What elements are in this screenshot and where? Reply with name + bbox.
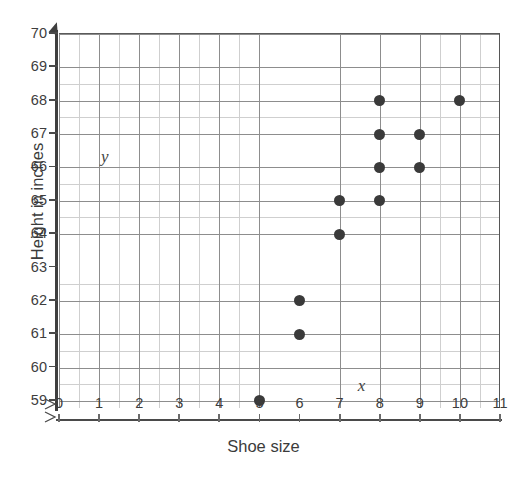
x-tick-mark <box>339 414 341 422</box>
x-tick-label: 1 <box>86 396 112 411</box>
y-tick-mark <box>49 366 58 368</box>
x-tick-mark <box>379 414 381 422</box>
x-tick-label: 10 <box>447 396 473 411</box>
data-point <box>374 195 385 206</box>
y-tick-label: 61 <box>25 326 47 341</box>
y-tick-mark <box>49 266 58 268</box>
x-variable-label: x <box>358 376 366 396</box>
y-tick-mark <box>49 99 58 101</box>
data-point <box>414 129 425 140</box>
y-tick-label: 69 <box>25 59 47 74</box>
x-tick-mark <box>178 414 180 422</box>
y-tick-label: 70 <box>25 26 47 41</box>
x-tick-label: 7 <box>327 396 353 411</box>
x-tick-mark <box>138 414 140 422</box>
x-tick-label: 5 <box>246 396 272 411</box>
y-tick-mark <box>49 166 58 168</box>
y-tick-mark <box>49 299 58 301</box>
y-axis-title: Height in inches <box>28 102 47 302</box>
data-point <box>294 329 305 340</box>
plot-area: y x <box>59 33 500 408</box>
axis-break-icon-lower <box>44 411 59 424</box>
x-tick-label: 6 <box>287 396 313 411</box>
x-tick-mark <box>459 414 461 422</box>
y-tick-mark <box>49 32 58 34</box>
x-tick-label: 9 <box>407 396 433 411</box>
x-tick-mark <box>259 414 261 422</box>
data-point <box>374 95 385 106</box>
y-tick-mark <box>49 132 58 134</box>
y-tick-mark <box>49 65 58 67</box>
data-point <box>414 162 425 173</box>
y-tick-mark <box>49 199 58 201</box>
y-tick-mark <box>49 332 58 334</box>
data-point <box>334 229 345 240</box>
scatter-plot: y x 596061626364656667686970 01234567891… <box>0 0 527 478</box>
x-tick-label: 8 <box>367 396 393 411</box>
x-tick-mark <box>218 414 220 422</box>
data-point <box>454 95 465 106</box>
x-axis-line <box>56 419 502 421</box>
data-point <box>294 295 305 306</box>
x-axis-title: Shoe size <box>0 437 527 456</box>
x-tick-label: 4 <box>206 396 232 411</box>
data-point <box>334 195 345 206</box>
data-point <box>374 129 385 140</box>
x-tick-mark <box>299 414 301 422</box>
x-tick-mark <box>98 414 100 422</box>
x-tick-label: 3 <box>166 396 192 411</box>
x-tick-mark <box>499 414 501 422</box>
x-tick-label: 2 <box>126 396 152 411</box>
major-gridlines <box>59 34 499 408</box>
axis-break-icon-upper <box>44 398 59 411</box>
y-axis-line <box>55 30 58 411</box>
y-tick-mark <box>49 232 58 234</box>
data-point <box>374 162 385 173</box>
y-tick-label: 60 <box>25 360 47 375</box>
minor-gridlines <box>59 34 499 408</box>
x-tick-label: 11 <box>487 396 513 411</box>
y-variable-label: y <box>101 147 109 167</box>
x-tick-mark <box>419 414 421 422</box>
